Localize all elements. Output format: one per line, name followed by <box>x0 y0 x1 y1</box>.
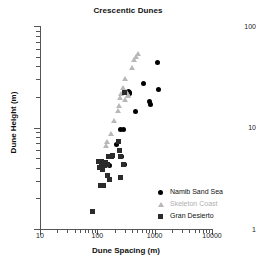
data-point <box>116 103 122 108</box>
y-tick-label: 100 <box>226 23 256 30</box>
x-tick <box>75 229 76 233</box>
x-tick <box>125 229 126 233</box>
legend-item: Gran Desierto <box>156 210 223 222</box>
data-point <box>135 51 141 56</box>
data-point <box>103 143 109 148</box>
chart-title: Crescentic Dunes <box>0 6 256 15</box>
x-tick <box>67 229 68 233</box>
data-point <box>148 102 153 107</box>
data-point <box>107 177 112 182</box>
x-tick-label: 100 <box>77 232 117 239</box>
x-tick <box>182 229 183 233</box>
data-point <box>121 162 126 167</box>
data-point <box>103 160 108 165</box>
data-point <box>121 127 126 132</box>
x-tick <box>132 229 133 233</box>
legend-label: Namib Sand Sea <box>170 188 223 195</box>
legend-label: Skeleton Coast <box>170 200 217 207</box>
data-point <box>129 65 135 70</box>
legend-item: Skeleton Coast <box>156 198 223 210</box>
data-point <box>117 148 122 153</box>
data-point <box>108 131 114 136</box>
chart-root: Crescentic Dunes 110100 10100100010000 D… <box>0 0 256 266</box>
x-tick-label: 1000 <box>135 232 175 239</box>
square-marker-icon <box>158 214 163 219</box>
data-point <box>111 118 117 123</box>
data-point <box>116 139 121 144</box>
legend-label: Gran Desierto <box>170 212 214 219</box>
data-point <box>155 60 160 65</box>
data-point <box>122 90 127 95</box>
x-tick-label: 10 <box>20 232 60 239</box>
data-point <box>122 76 128 81</box>
data-point <box>115 108 121 113</box>
data-point <box>118 175 123 180</box>
data-point <box>90 209 95 214</box>
y-axis-title: Dune Height (m) <box>9 63 18 183</box>
y-tick-label: 10 <box>226 124 256 131</box>
data-point <box>122 97 128 102</box>
legend-item: Namib Sand Sea <box>156 186 223 198</box>
data-point <box>101 183 106 188</box>
x-axis-line <box>40 229 212 230</box>
data-point <box>99 160 104 165</box>
triangle-marker-icon <box>158 202 164 207</box>
x-tick <box>189 229 190 233</box>
data-point <box>110 153 115 158</box>
circle-marker-icon <box>158 190 163 195</box>
data-point <box>104 139 110 144</box>
x-tick-label: 10000 <box>192 232 232 239</box>
chart-legend: Namib Sand SeaSkeleton CoastGran Desiert… <box>156 186 223 222</box>
x-axis-title: Dune Spacing (m) <box>40 246 212 255</box>
data-point <box>118 154 123 159</box>
